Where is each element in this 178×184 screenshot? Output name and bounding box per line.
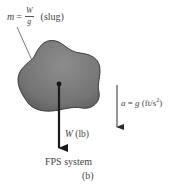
system-caption: FPS system xyxy=(45,157,92,167)
weight-unit: (lb) xyxy=(75,129,89,139)
weight-label: W (lb) xyxy=(65,130,89,140)
mass-equals-sign: = xyxy=(16,12,22,22)
mass-unit: (slug) xyxy=(41,12,64,22)
acceleration-symbol: a xyxy=(121,98,126,108)
fps-system-diagram: m = W g (slug) W (lb) a = g (ft/s2) FPS … xyxy=(0,0,178,184)
subfigure-label: (b) xyxy=(82,171,94,181)
mass-symbol: m xyxy=(7,12,14,22)
acceleration-label: a = g (ft/s2) xyxy=(121,97,162,108)
fraction-numerator: W xyxy=(25,7,34,17)
mass-equation-label: m = W g (slug) xyxy=(7,7,64,26)
weight-over-gravity-fraction: W g xyxy=(25,7,34,26)
acceleration-equals-sign: = xyxy=(128,98,133,108)
acceleration-value: g xyxy=(135,98,140,108)
weight-symbol: W xyxy=(65,129,73,139)
acceleration-unit-suffix: ) xyxy=(159,98,162,108)
fraction-denominator: g xyxy=(27,17,31,26)
acceleration-unit-prefix: (ft/s xyxy=(142,98,157,108)
